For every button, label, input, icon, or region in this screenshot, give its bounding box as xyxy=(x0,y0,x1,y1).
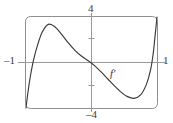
graph-canvas xyxy=(0,0,173,123)
x-axis-max-label: 1 xyxy=(163,55,169,66)
y-axis-min-label: –4 xyxy=(86,109,97,120)
x-axis-min-label: –1 xyxy=(4,55,15,66)
curve-name-label: f′ xyxy=(110,68,115,79)
y-axis-max-label: 4 xyxy=(88,3,94,14)
derivative-graph-figure: 4 –4 –1 1 f′ xyxy=(0,0,173,123)
